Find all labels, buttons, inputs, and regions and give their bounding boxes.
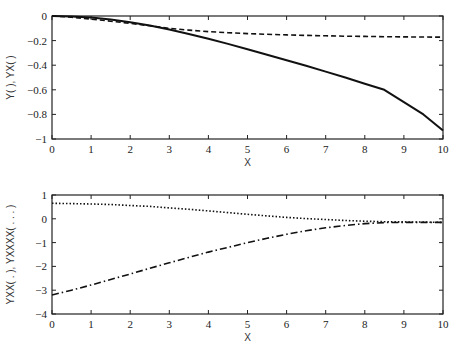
bottom-plot: 01234567891010−1−2−3−4XYXX( . ), YXXXX( … (5, 189, 449, 343)
x-tick-label: 2 (127, 318, 133, 330)
x-tick-label: 0 (49, 143, 55, 155)
plot-frame (52, 16, 443, 139)
top-plot: 0123456789100−0.2−0.4−0.6−0.8−1XY( ), YX… (5, 10, 449, 168)
x-tick-label: 8 (362, 318, 368, 330)
x-tick-label: 1 (88, 143, 94, 155)
x-tick-label: 9 (401, 143, 407, 155)
y-tick-label: 0 (42, 10, 48, 22)
x-tick-label: 6 (284, 318, 290, 330)
x-tick-label: 3 (167, 143, 173, 155)
x-tick-label: 8 (362, 143, 368, 155)
y-tick-label: 1 (42, 189, 48, 201)
x-tick-label: 4 (206, 143, 212, 155)
y-axis-label: Y( ), YX( ) (5, 55, 16, 99)
x-tick-label: 7 (323, 318, 329, 330)
y-tick-label: −0.8 (27, 108, 47, 120)
x-tick-label: 4 (206, 318, 212, 330)
x-tick-label: 10 (438, 318, 450, 330)
y-tick-label: −0.6 (27, 84, 47, 96)
x-tick-label: 5 (245, 143, 251, 155)
x-tick-label: 9 (401, 318, 407, 330)
x-tick-label: 0 (49, 318, 55, 330)
plot-frame (52, 195, 443, 314)
y-tick-label: −1 (35, 133, 47, 145)
y-tick-label: −1 (35, 237, 47, 249)
y-tick-label: −2 (35, 260, 47, 272)
x-tick-label: 2 (127, 143, 133, 155)
x-tick-label: 3 (167, 318, 173, 330)
series-yxx-line (52, 203, 443, 222)
x-axis-label: X (244, 332, 251, 343)
y-tick-label: 0 (42, 213, 48, 225)
y-tick-label: −0.4 (27, 59, 47, 71)
x-axis-label: X (244, 157, 251, 168)
x-tick-label: 6 (284, 143, 290, 155)
y-tick-label: −3 (35, 284, 47, 296)
y-tick-label: −4 (35, 308, 47, 320)
chart-figure: 0123456789100−0.2−0.4−0.6−0.8−1XY( ), YX… (0, 0, 459, 354)
y-axis-label: YXX( . ), YXXXX( . . . ) (5, 205, 16, 305)
y-tick-label: −0.2 (27, 35, 47, 47)
x-tick-label: 5 (245, 318, 251, 330)
series-yxxxx-line (52, 222, 443, 295)
x-tick-label: 7 (323, 143, 329, 155)
x-tick-label: 1 (88, 318, 94, 330)
x-tick-label: 10 (438, 143, 450, 155)
